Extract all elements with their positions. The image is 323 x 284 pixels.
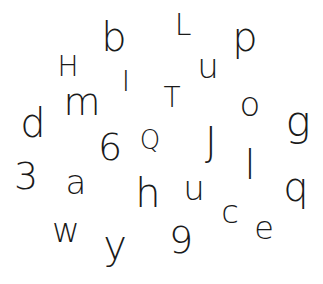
glyph-23: y: [103, 225, 127, 265]
glyph-4: u: [197, 49, 219, 83]
letter-scatter-canvas: bLpHuImTogd6QJlq3ahucewy9: [0, 0, 323, 284]
glyph-20: c: [221, 196, 239, 228]
glyph-19: u: [183, 171, 205, 205]
glyph-11: 6: [98, 128, 122, 166]
glyph-2: p: [232, 17, 257, 57]
glyph-5: I: [122, 68, 130, 96]
glyph-12: Q: [140, 127, 160, 153]
glyph-0: b: [101, 17, 126, 57]
glyph-7: T: [163, 84, 180, 112]
glyph-13: J: [205, 122, 217, 162]
glyph-15: q: [283, 167, 308, 207]
glyph-17: a: [66, 165, 87, 199]
glyph-22: w: [52, 213, 80, 247]
glyph-6: m: [63, 83, 100, 121]
glyph-3: H: [57, 53, 78, 81]
glyph-14: l: [244, 145, 255, 185]
glyph-8: o: [240, 87, 261, 121]
glyph-18: h: [135, 173, 160, 213]
glyph-9: g: [285, 101, 310, 143]
glyph-21: e: [254, 212, 274, 244]
glyph-10: d: [20, 103, 45, 143]
glyph-16: 3: [14, 157, 38, 195]
glyph-24: 9: [169, 221, 193, 259]
glyph-1: L: [175, 10, 192, 40]
